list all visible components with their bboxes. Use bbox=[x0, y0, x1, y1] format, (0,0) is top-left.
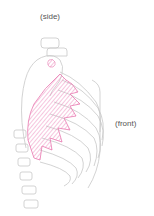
ribcage-muscle-diagram bbox=[0, 0, 154, 216]
serratus-anterior-muscle bbox=[28, 74, 80, 160]
muscle-origin-patch bbox=[48, 59, 56, 67]
